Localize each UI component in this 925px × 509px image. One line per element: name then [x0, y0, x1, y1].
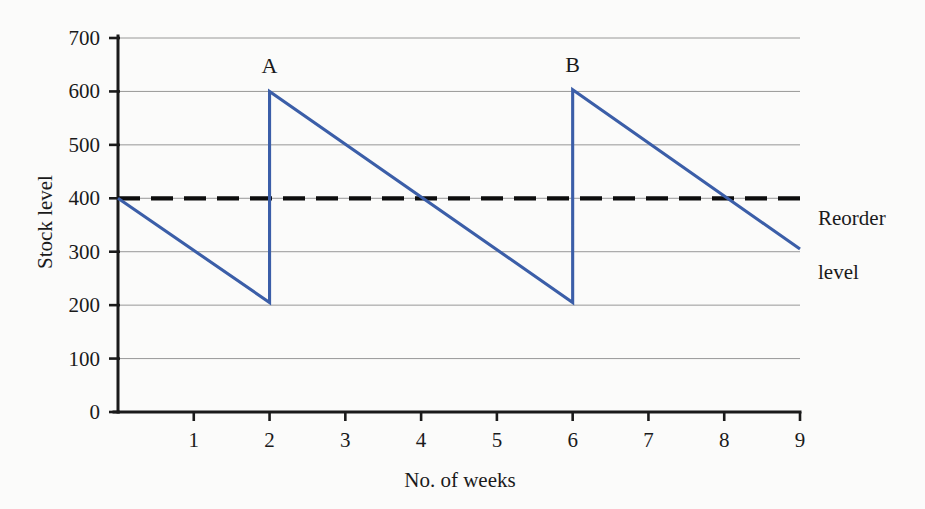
x-tick-label-1: 1: [189, 428, 200, 452]
x-tick-label-8: 8: [719, 428, 730, 452]
x-tick-label-2: 2: [264, 428, 275, 452]
y-tick-label-400: 400: [69, 186, 101, 210]
y-tick-label-500: 500: [69, 133, 101, 157]
x-tick-label-6: 6: [567, 428, 578, 452]
annotation-b: B: [565, 52, 580, 77]
reorder-level-label-line2: level: [818, 259, 886, 286]
x-tick-label-5: 5: [492, 428, 503, 452]
y-tick-label-0: 0: [90, 400, 101, 424]
stock-level-chart: 0100200300400500600700 123456789 AB No. …: [0, 0, 925, 509]
stock-level-series: [118, 90, 800, 303]
x-tick-label-9: 9: [795, 428, 806, 452]
x-axis-title: No. of weeks: [404, 468, 515, 492]
y-tick-label-300: 300: [69, 240, 101, 264]
stock-level-chart-figure: 0100200300400500600700 123456789 AB No. …: [0, 0, 925, 509]
series-path-stock-level: [118, 90, 800, 303]
y-tick-label-700: 700: [69, 26, 101, 50]
x-tick-label-3: 3: [340, 428, 351, 452]
point-annotations: AB: [262, 52, 580, 79]
y-axis-tick-labels: 0100200300400500600700: [69, 26, 101, 424]
x-tick-label-4: 4: [416, 428, 427, 452]
y-tick-label-100: 100: [69, 347, 101, 371]
x-axis-tick-labels: 123456789: [189, 428, 806, 452]
annotation-a: A: [262, 53, 278, 78]
x-tick-label-7: 7: [643, 428, 654, 452]
reorder-level-label-line1: Reorder: [818, 205, 886, 232]
y-axis-title: Stock level: [33, 175, 57, 269]
tick-marks-group: [109, 38, 800, 421]
reorder-level-label: Reorder level: [818, 178, 886, 312]
axes-group: [114, 36, 800, 412]
y-tick-label-600: 600: [69, 79, 101, 103]
y-tick-label-200: 200: [69, 293, 101, 317]
